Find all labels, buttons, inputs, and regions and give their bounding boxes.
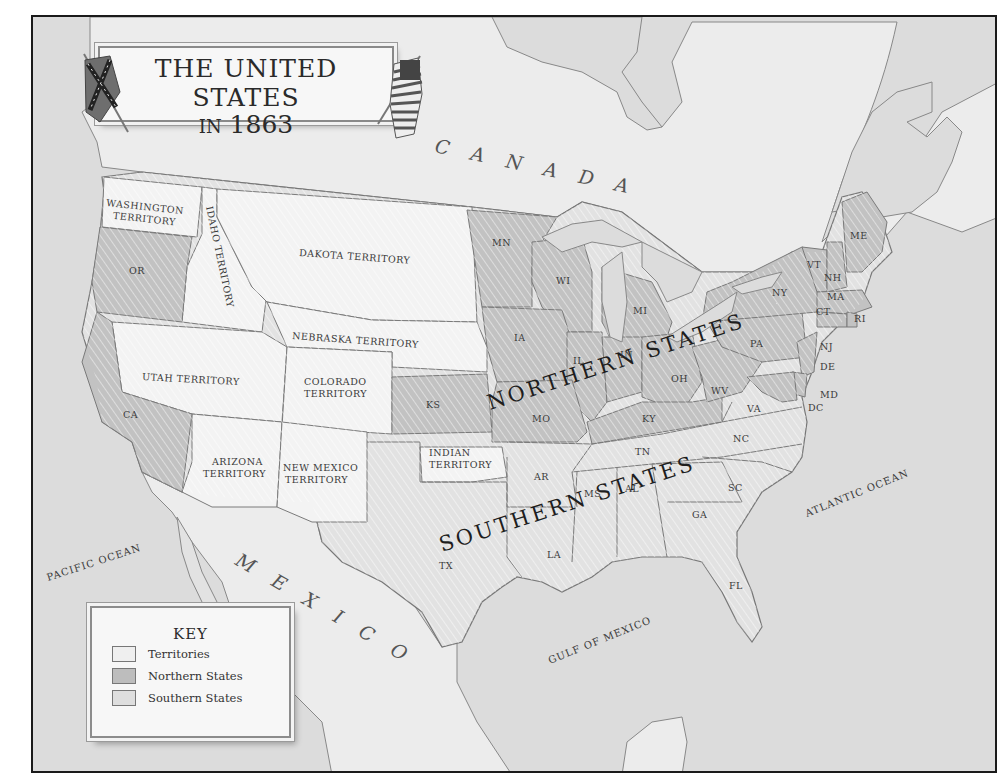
label-md: MD <box>820 389 838 400</box>
label-ma: MA <box>827 291 845 302</box>
label-ia: IA <box>514 332 526 343</box>
title-line-1: THE UNITED STATES <box>100 54 392 112</box>
label-ar: AR <box>533 471 549 482</box>
label-mo: MO <box>532 413 551 424</box>
label-in: IN <box>620 349 633 360</box>
label-nh: NH <box>824 272 842 283</box>
label-la: LA <box>547 549 561 560</box>
map-legend: KEY Territories Northern States Southern… <box>90 606 291 738</box>
legend-title: KEY <box>92 625 289 643</box>
label-ms: MS <box>584 488 601 499</box>
title-prefix: IN <box>199 116 222 137</box>
label-tx: TX <box>439 560 453 571</box>
label-al: AL <box>624 483 639 494</box>
legend-label: Territories <box>148 647 210 661</box>
title-year: 1863 <box>230 110 294 139</box>
label-arizona-territory: ARIZONATERRITORY <box>203 456 266 479</box>
label-pa: PA <box>750 338 763 349</box>
label-or: OR <box>129 265 145 276</box>
label-oh: OH <box>671 373 688 384</box>
label-new-mexico-territory: NEW MEXICOTERRITORY <box>283 462 358 485</box>
label-dc: DC <box>808 402 824 413</box>
label-me: ME <box>850 230 868 241</box>
label-sc: SC <box>728 482 743 493</box>
legend-item-southern-states: Southern States <box>112 687 289 709</box>
label-nc: NC <box>733 433 750 444</box>
label-ga: GA <box>692 509 707 520</box>
confederate-flag-icon <box>80 52 130 142</box>
label-va: VA <box>746 403 761 414</box>
label-ri: RI <box>854 313 866 324</box>
label-ct: CT <box>816 306 831 317</box>
title-line-2: IN 1863 <box>100 112 392 140</box>
legend-swatch-northern-states <box>112 668 136 684</box>
legend-swatch-southern-states <box>112 690 136 706</box>
label-mi: MI <box>633 305 647 316</box>
legend-swatch-territories <box>112 646 136 662</box>
legend-label: Northern States <box>148 669 243 683</box>
legend-item-territories: Territories <box>112 643 289 665</box>
legend-label: Southern States <box>148 691 242 705</box>
label-de: DE <box>820 361 836 372</box>
legend-item-northern-states: Northern States <box>112 665 289 687</box>
label-ny: NY <box>772 287 788 298</box>
title-banner: THE UNITED STATES IN 1863 <box>98 46 394 122</box>
label-nj: NJ <box>820 341 833 352</box>
label-il: IL <box>573 355 584 366</box>
label-tn: TN <box>635 446 651 457</box>
label-colorado-territory: COLORADOTERRITORY <box>304 376 367 399</box>
label-wv: WV <box>711 385 729 396</box>
union-flag-icon <box>374 54 424 142</box>
label-fl: FL <box>729 580 743 591</box>
label-ky: KY <box>642 413 656 424</box>
label-mn: MN <box>492 237 511 248</box>
label-ks: KS <box>426 399 441 410</box>
label-ca: CA <box>123 409 138 420</box>
label-vt: VT <box>806 259 821 270</box>
label-wi: WI <box>556 275 571 286</box>
